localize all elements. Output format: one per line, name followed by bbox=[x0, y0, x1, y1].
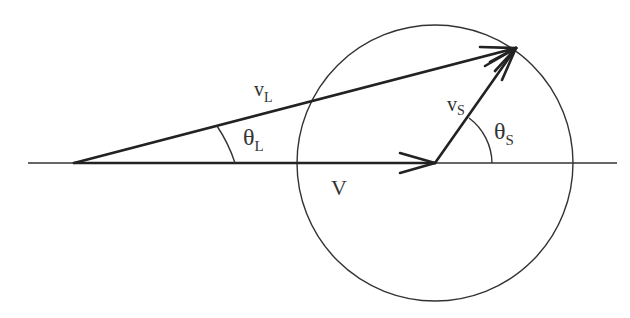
theta-source-arc bbox=[469, 118, 492, 163]
theta-lab-arc bbox=[217, 126, 235, 163]
v-frame-label: V bbox=[331, 175, 347, 200]
theta-source-label: θS bbox=[494, 118, 514, 148]
theta-lab-label: θL bbox=[243, 124, 264, 154]
v-lab-label: vL bbox=[254, 78, 273, 105]
velocity-diagram: vL θL vS θS V bbox=[0, 0, 630, 318]
v-source-label: vS bbox=[447, 93, 465, 118]
